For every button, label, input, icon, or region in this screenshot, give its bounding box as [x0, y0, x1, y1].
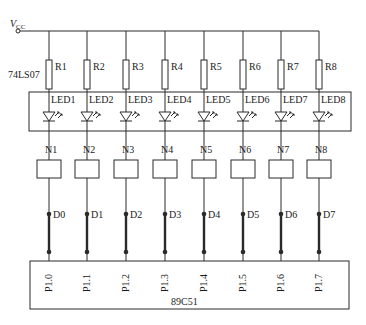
port-pin-label: P1.0	[43, 274, 54, 292]
node-label: N8	[315, 144, 327, 155]
led-label: LED5	[206, 94, 230, 105]
channel-8: R8LED8N8D7P1.7	[307, 31, 345, 292]
led-diode-icon	[275, 112, 287, 121]
data-bit-label: D7	[323, 209, 335, 220]
driver-ic-label: 74LS07	[8, 69, 40, 80]
resistor-label: R3	[132, 61, 144, 72]
junction-dot	[317, 212, 322, 217]
resistor-label: R8	[325, 61, 337, 72]
led-diode-icon	[159, 112, 171, 121]
light-emission-icon	[287, 112, 294, 118]
resistor-label: R1	[55, 61, 67, 72]
channel-1: R1LED1N1D0P1.0	[37, 31, 75, 292]
node-label: N5	[200, 144, 212, 155]
channel-6: R6LED6N6D5P1.5	[231, 31, 269, 292]
node-label: N2	[83, 144, 95, 155]
chip-label: 89C51	[171, 296, 198, 307]
light-emission-icon	[93, 112, 100, 118]
junction-dot	[202, 212, 207, 217]
led-label: LED3	[128, 94, 152, 105]
led-diode-icon	[120, 112, 132, 121]
resistor-label: R5	[210, 61, 222, 72]
port-pin-label: P1.3	[159, 274, 170, 292]
data-bit-label: D6	[285, 209, 297, 220]
led-label: LED7	[283, 94, 307, 105]
led-driver-schematic: R1LED1N1D0P1.0R2LED2N2D1P1.1R3LED3N3D2P1…	[0, 0, 366, 325]
light-emission-icon	[132, 112, 139, 118]
channel-4: R4LED4N4D3P1.3	[153, 31, 191, 292]
node-label: N3	[122, 144, 134, 155]
led-label: LED1	[51, 94, 75, 105]
channel-2: R2LED2N2D1P1.1	[75, 31, 113, 292]
resistor-r4	[162, 60, 168, 89]
junction-dot	[279, 212, 284, 217]
resistor-r7	[278, 60, 284, 89]
resistor-r1	[46, 60, 52, 89]
node-label: N6	[239, 144, 251, 155]
data-bit-label: D2	[130, 209, 142, 220]
node-label: N1	[45, 144, 57, 155]
junction-dot	[241, 212, 246, 217]
resistor-r5	[201, 60, 207, 89]
data-bit-label: D3	[169, 209, 181, 220]
channel-3: R3LED3N3D2P1.2	[114, 31, 152, 292]
resistor-r6	[240, 60, 246, 89]
port-pin-label: P1.2	[120, 274, 131, 292]
led-diode-icon	[43, 112, 55, 121]
light-emission-icon	[210, 112, 217, 118]
driver-block-n5	[192, 160, 216, 178]
resistor-r2	[84, 60, 90, 89]
resistor-r3	[123, 60, 129, 89]
node-label: N4	[161, 144, 173, 155]
junction-dot	[85, 212, 90, 217]
driver-block-n1	[37, 160, 61, 178]
driver-block-n2	[75, 160, 99, 178]
led-label: LED4	[167, 94, 191, 105]
data-bit-label: D5	[247, 209, 259, 220]
vcc-label: VCC	[10, 18, 26, 31]
channel-5: R5LED5N5D4P1.4	[192, 31, 230, 292]
resistor-r8	[316, 60, 322, 89]
light-emission-icon	[55, 112, 62, 118]
port-pin-label: P1.1	[81, 274, 92, 292]
led-diode-icon	[313, 112, 325, 121]
junction-dot	[124, 212, 129, 217]
light-emission-icon	[249, 112, 256, 118]
light-emission-icon	[171, 112, 178, 118]
port-pin-label: P1.5	[237, 274, 248, 292]
led-label: LED8	[321, 94, 345, 105]
data-bit-label: D1	[91, 209, 103, 220]
junction-dot	[47, 212, 52, 217]
driver-block-n6	[231, 160, 255, 178]
port-pin-label: P1.4	[198, 274, 209, 292]
led-diode-icon	[198, 112, 210, 121]
port-pin-label: P1.6	[275, 274, 286, 292]
data-bit-label: D4	[208, 209, 220, 220]
port-pin-label: P1.7	[313, 274, 324, 292]
led-label: LED2	[89, 94, 113, 105]
channel-7: R7LED7N7D6P1.6	[269, 31, 307, 292]
resistor-label: R7	[287, 61, 299, 72]
driver-block-n7	[269, 160, 293, 178]
driver-block-n3	[114, 160, 138, 178]
led-label: LED6	[245, 94, 269, 105]
resistor-label: R4	[171, 61, 183, 72]
resistor-label: R2	[93, 61, 105, 72]
resistor-label: R6	[249, 61, 261, 72]
node-label: N7	[277, 144, 289, 155]
led-diode-icon	[237, 112, 249, 121]
driver-block-n4	[153, 160, 177, 178]
led-diode-icon	[81, 112, 93, 121]
light-emission-icon	[325, 112, 332, 118]
junction-dot	[163, 212, 168, 217]
driver-block-n8	[307, 160, 331, 178]
data-bit-label: D0	[53, 209, 65, 220]
